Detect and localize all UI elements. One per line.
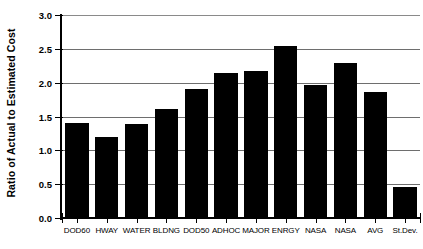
- x-axis-category-label: DOD60: [64, 226, 90, 235]
- x-axis-category-label: MAJOR: [242, 226, 270, 235]
- y-axis-tick: [55, 83, 63, 84]
- x-axis-tick: [62, 213, 63, 223]
- x-axis-category-label: AVG: [367, 226, 383, 235]
- x-axis-tick: [345, 213, 346, 223]
- bar: [65, 123, 88, 218]
- x-axis-tick: [226, 213, 227, 223]
- y-axis-tick: [55, 15, 63, 16]
- x-axis-tick: [375, 213, 376, 223]
- y-axis-tick-label: 0.5: [26, 179, 52, 190]
- bar: [244, 71, 267, 219]
- bar: [304, 85, 327, 218]
- y-axis-tick-label: 1.5: [26, 111, 52, 122]
- y-axis-tick-label: 3.0: [26, 10, 52, 21]
- bar: [125, 124, 148, 218]
- x-axis-tick: [286, 213, 287, 223]
- bar: [364, 92, 387, 218]
- y-axis-title: Ratio of Actual to Estimated Cost: [5, 28, 17, 197]
- plot-area: [62, 15, 420, 218]
- y-axis-tick: [55, 117, 63, 118]
- gridline: [62, 15, 420, 16]
- bar: [95, 137, 118, 218]
- y-axis-tick-label: 0.0: [26, 213, 52, 224]
- x-axis-line: [62, 217, 420, 219]
- gridline: [62, 49, 420, 50]
- y-axis-tick: [55, 49, 63, 50]
- bar: [185, 89, 208, 218]
- y-axis-title-container: Ratio of Actual to Estimated Cost: [0, 0, 22, 225]
- gridline: [62, 83, 420, 84]
- x-axis-tick: [107, 213, 108, 223]
- x-axis-tick: [166, 213, 167, 223]
- x-axis-tick: [77, 213, 78, 223]
- x-axis-category-label: DOD50: [183, 226, 209, 235]
- x-axis-category-label: ENRGY: [272, 226, 300, 235]
- bar-chart-figure: Ratio of Actual to Estimated Cost 0.00.5…: [0, 0, 423, 249]
- x-axis-category-label: HWAY: [95, 226, 118, 235]
- x-axis-tick: [420, 213, 421, 223]
- x-axis-tick: [137, 213, 138, 223]
- x-axis-category-label: NASA: [305, 226, 326, 235]
- x-axis-tick: [316, 213, 317, 223]
- y-axis-tick-label: 2.0: [26, 77, 52, 88]
- bar: [155, 109, 178, 218]
- x-axis-tick: [196, 213, 197, 223]
- x-axis-category-label: St.Dev.: [393, 226, 418, 235]
- x-axis-tick: [405, 213, 406, 223]
- y-axis-tick-labels: 0.00.51.01.52.02.53.0: [22, 0, 52, 249]
- y-axis-tick-label: 1.0: [26, 145, 52, 156]
- x-axis-category-label: WATER: [123, 226, 151, 235]
- x-axis-category-label: BLDNG: [153, 226, 180, 235]
- bar: [274, 46, 297, 218]
- x-axis-category-label: ADHOC: [212, 226, 240, 235]
- y-axis-tick: [55, 184, 63, 185]
- x-axis-tick: [256, 213, 257, 223]
- x-axis-category-label: NASA: [335, 226, 356, 235]
- y-axis-tick-label: 2.5: [26, 43, 52, 54]
- y-axis-tick: [55, 150, 63, 151]
- bar: [334, 63, 357, 218]
- bar: [214, 73, 237, 218]
- x-axis-tick-labels: DOD60HWAYWATERBLDNGDOD50ADHOCMAJORENRGYN…: [0, 226, 423, 242]
